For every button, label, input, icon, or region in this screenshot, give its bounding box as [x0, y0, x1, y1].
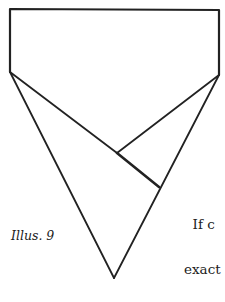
- inner-fold-thick: [117, 153, 159, 187]
- left-inner-fold: [10, 72, 117, 153]
- illustration-caption: Illus. 9: [11, 228, 54, 243]
- body-text: If c exact fold c der t keep airpla: [184, 187, 225, 302]
- text-line: exact: [184, 262, 225, 277]
- text-line: If c: [184, 217, 225, 232]
- right-inner-fold: [117, 75, 219, 153]
- top-rectangle: [10, 9, 219, 75]
- left-outer-edge: [10, 72, 114, 278]
